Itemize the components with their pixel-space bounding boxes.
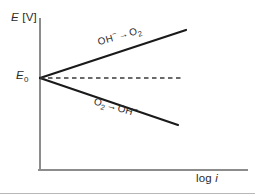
y-axis-unit: [V] — [22, 11, 37, 23]
e0-symbol: E — [16, 69, 24, 81]
cathodic-product: OH — [117, 102, 135, 117]
x-axis-label: log i — [196, 172, 218, 184]
e0-subscript: 0 — [24, 75, 29, 84]
y-axis-symbol: E — [11, 11, 19, 23]
equilibrium-potential-label: E0 — [16, 69, 29, 84]
x-axis-symbol: i — [215, 172, 218, 184]
tafel-plot-figure: E [V] log i E0 OH−→O2 O2→OH− — [0, 0, 255, 194]
y-axis-label: E [V] — [11, 11, 37, 23]
x-axis-text: log — [196, 172, 212, 184]
